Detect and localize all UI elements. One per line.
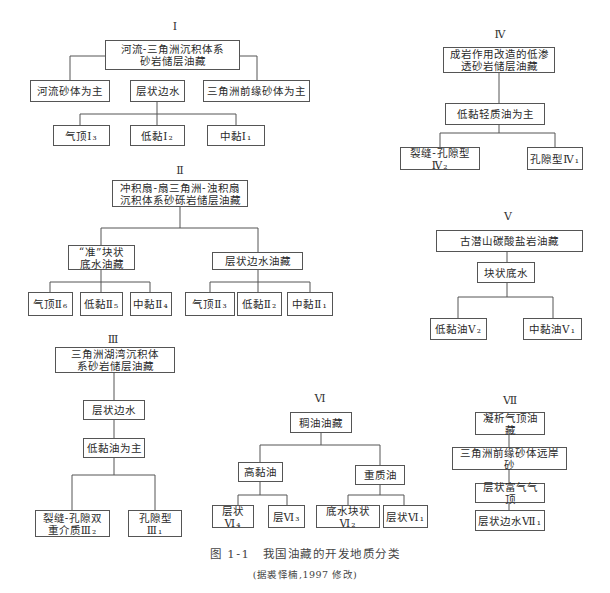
group-5-leaf-low-viscosity-oil: 低黏油Ⅴ₂: [430, 318, 487, 340]
group-3-root: 三角洲湖湾沉积体 系砂岩储层油藏: [55, 347, 175, 373]
group-2-child-layered-edge-water: 层状边水油藏: [212, 252, 303, 270]
group-6-root: 稠油油藏: [290, 412, 352, 433]
group-2-leaf-low-viscosity-2: 低黏Ⅱ₂: [237, 292, 282, 316]
group-3-label: Ⅲ: [108, 333, 119, 346]
group-2-leaf-medium-viscosity-1: 中黏Ⅱ₁: [287, 292, 333, 316]
group-1-root: 河流-三角洲沉积体系 砂岩储层油藏: [105, 40, 240, 70]
group-6-label: Ⅵ: [314, 392, 325, 405]
group-4-root: 成岩作用改造的低渗 透砂岩储层油藏: [443, 47, 555, 73]
group-4-leaf-fracture-pore: 裂缝-孔隙型Ⅳ₂: [400, 147, 480, 170]
group-2-child-quasi-block-bottom-water: “准”块状 底水油藏: [68, 245, 135, 270]
group-1-child-layered-edge-water: 层状边水: [130, 80, 185, 102]
group-1-child-delta-front-sand: 三角洲前缘砂体为主: [203, 80, 310, 102]
group-7-child-delta-front-distal-sand: 三角洲前缘砂体远岸砂: [452, 447, 567, 470]
group-2-leaf-low-viscosity-5: 低黏Ⅱ₅: [80, 292, 123, 316]
group-4-child-low-viscosity-light-oil: 低黏轻质油为主: [445, 103, 545, 125]
group-6-leaf-layer-3: 层Ⅵ₃: [268, 505, 305, 528]
group-3-leaf-pore-type: 孔隙型 Ⅲ₁: [128, 510, 182, 537]
group-5-leaf-medium-viscosity-oil: 中黏油Ⅴ₁: [523, 318, 582, 340]
figure-caption-title: 图 1-1 我国油藏的开发地质分类: [0, 545, 610, 561]
group-7-root: 凝析气顶油藏: [475, 412, 545, 435]
group-2-root: 冲积扇-扇三角洲-浊积扇 沉积体系砂砾岩储层油藏: [112, 180, 248, 207]
group-2-leaf-gas-cap-6: 气顶Ⅱ₆: [28, 292, 73, 316]
group-2-label: Ⅱ: [176, 164, 183, 177]
group-2-leaf-medium-viscosity-4: 中黏Ⅱ₄: [130, 292, 172, 316]
group-1-label: Ⅰ: [173, 20, 177, 33]
group-4-leaf-pore-type: 孔隙型Ⅳ₁: [527, 147, 583, 170]
group-4-label: Ⅳ: [495, 28, 506, 41]
group-6-leaf-layered-1: 层状Ⅵ₁: [383, 505, 428, 528]
group-7-leaf-layered-edge-water: 层状边水Ⅶ₁: [475, 510, 545, 531]
group-7-label: Ⅶ: [503, 394, 517, 407]
group-2-leaf-gas-cap-3: 气顶Ⅱ₃: [185, 292, 235, 316]
group-3-leaf-fracture-pore-dual: 裂缝-孔隙双 重介质Ⅲ₂: [35, 510, 110, 537]
group-6-child-high-viscosity-oil: 高黏油: [238, 462, 283, 482]
group-1-leaf-low-viscosity: 低黏Ⅰ₂: [130, 125, 185, 146]
group-7-child-layered-gas-rich-cap: 层状富气气顶: [475, 483, 545, 503]
group-1-child-fluvial-sand: 河流砂体为主: [30, 80, 110, 102]
group-5-label: Ⅴ: [504, 210, 512, 223]
group-5-child-block-bottom-water: 块状底水: [477, 262, 535, 283]
group-3-child-layered-edge-water: 层状边水: [83, 400, 145, 420]
group-6-leaf-layered-4: 层状Ⅵ₄: [212, 505, 254, 528]
figure-caption-source: (据裘怿楠,1997 修改): [0, 567, 610, 581]
group-5-root: 古潜山碳酸盐岩油藏: [436, 230, 583, 252]
group-1-leaf-gas-cap: 气顶Ⅰ₃: [53, 125, 110, 146]
group-6-leaf-bottom-water-block-2: 底水块状Ⅵ₂: [316, 505, 380, 528]
group-6-child-heavy-oil: 重质油: [355, 465, 405, 485]
group-3-child-low-viscosity-oil: 低黏油为主: [83, 438, 145, 458]
group-1-leaf-medium-viscosity: 中黏Ⅰ₁: [207, 125, 265, 146]
